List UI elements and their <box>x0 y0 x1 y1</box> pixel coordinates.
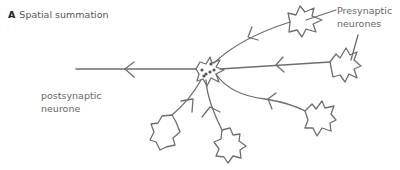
synaptic-dots <box>200 62 215 77</box>
presynaptic-neuron-5 <box>150 80 201 150</box>
presynaptic-neuron-2 <box>220 35 361 82</box>
arrowhead-icon <box>202 107 220 117</box>
postsynaptic-axon <box>76 62 196 77</box>
presynaptic-neuron-1 <box>214 6 336 63</box>
neuron-drawing <box>0 0 400 170</box>
spatial-summation-diagram: ASpatial summation Presynaptic neurones … <box>0 0 400 170</box>
arrowhead-icon <box>248 27 258 40</box>
presynaptic-neuron-3 <box>216 74 336 136</box>
